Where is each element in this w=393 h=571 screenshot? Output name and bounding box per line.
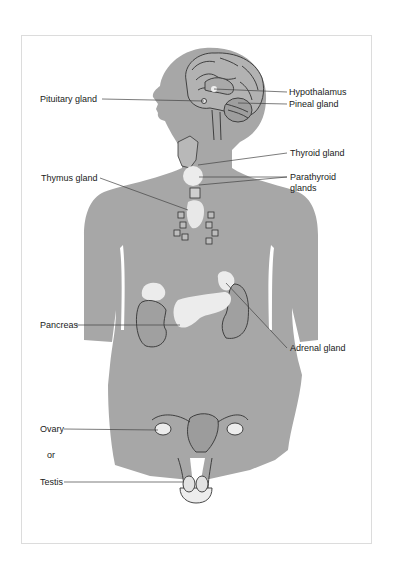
kidney-left <box>136 300 166 346</box>
label-hypothalamus: Hypothalamus <box>289 87 347 97</box>
label-thyroid-gland: Thyroid gland <box>290 148 345 158</box>
testis-left <box>183 476 195 492</box>
ovary-left <box>155 423 171 435</box>
label-parathyroid-line2: glands <box>290 183 317 193</box>
label-adrenal-gland: Adrenal gland <box>290 343 346 353</box>
label-parathyroid-line1: Parathyroid <box>290 172 336 182</box>
thyroid-gland <box>183 166 203 186</box>
testis-right <box>196 476 208 492</box>
label-pancreas: Pancreas <box>40 320 78 330</box>
label-pituitary-gland: Pituitary gland <box>40 94 97 104</box>
label-testis: Testis <box>40 477 63 487</box>
trachea-ring <box>190 188 200 198</box>
label-ovary: Ovary <box>40 424 64 434</box>
label-thymus-gland: Thymus gland <box>41 173 98 183</box>
label-pineal-gland: Pineal gland <box>289 99 339 109</box>
ovary-right <box>227 423 243 435</box>
label-or: or <box>47 450 55 460</box>
